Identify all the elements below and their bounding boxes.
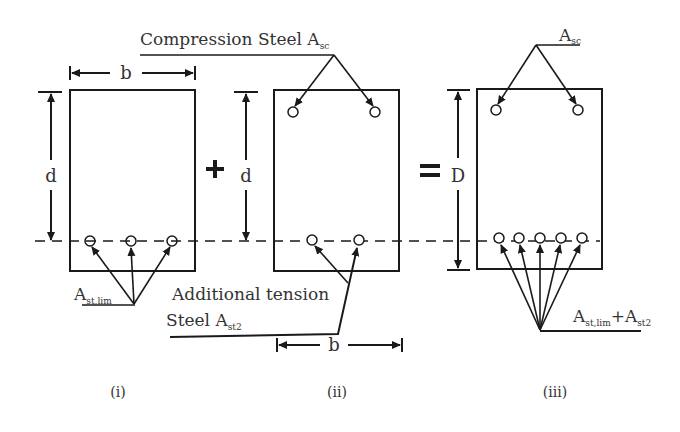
additional-tension-label-line2: Steel Ast2 <box>166 310 242 332</box>
section-iii: D Asc Ast,lim+Ast2 (iii) <box>447 25 651 400</box>
dim-d-ii: d <box>234 92 258 240</box>
section-ii: d Additional tension Steel Ast2 b (ii) <box>166 90 402 400</box>
dim-D-label: D <box>451 165 465 186</box>
compression-steel-callout: Compression Steel Asc <box>140 29 373 106</box>
dim-b-i-label: b <box>120 62 132 83</box>
sum-steel-label: Ast,lim+Ast2 <box>572 306 651 328</box>
dim-b-ii: b <box>277 334 402 355</box>
dim-b-ii-label: b <box>328 334 340 355</box>
tension-bar <box>535 233 545 243</box>
compression-steel-label: Compression Steel Asc <box>140 29 329 51</box>
compression-bar <box>573 105 583 115</box>
asc-label: Asc <box>558 25 581 46</box>
tension-bar <box>354 235 364 245</box>
dim-b-i: b <box>70 62 195 83</box>
compression-bar <box>288 107 298 117</box>
tension-bar <box>307 235 317 245</box>
caption-i: (i) <box>110 384 125 400</box>
tension-bar <box>514 233 524 243</box>
tension-bar <box>494 233 504 243</box>
caption-ii: (ii) <box>327 384 347 400</box>
dim-d-i-label: d <box>45 165 57 186</box>
additional-tension-label-line1: Additional tension <box>171 284 329 304</box>
compression-bar <box>491 105 501 115</box>
ast-lim-label: Ast,lim <box>73 284 112 306</box>
dim-d-ii-label: d <box>240 165 252 186</box>
equals-operator <box>420 164 440 177</box>
plus-operator <box>206 160 224 178</box>
tension-bar <box>577 233 587 243</box>
dim-D-iii: D <box>447 90 470 270</box>
section-i: b d Ast,lim (i) <box>38 62 195 400</box>
compression-bar <box>370 107 380 117</box>
beam-section-diagram: b d Ast,lim (i) d <box>0 0 680 432</box>
caption-iii: (iii) <box>543 384 567 400</box>
tension-bar <box>556 233 566 243</box>
dim-d-i: d <box>38 92 62 240</box>
